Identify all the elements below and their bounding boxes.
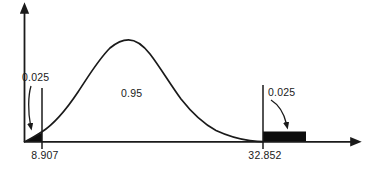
density-curve bbox=[25, 40, 264, 142]
right-tail-shaded-region bbox=[263, 132, 306, 142]
right-critical-value-label: 32.852 bbox=[248, 149, 281, 161]
left-annotation-arrow-icon bbox=[29, 86, 31, 125]
left-tail-probability-label: 0.025 bbox=[22, 71, 49, 83]
plot-canvas bbox=[0, 0, 370, 171]
left-critical-value-label: 8.907 bbox=[31, 149, 58, 161]
right-annotation-arrow-icon bbox=[271, 100, 287, 124]
distribution-figure: 0.025 0.95 0.025 8.907 32.852 bbox=[0, 0, 370, 171]
right-tail-probability-label: 0.025 bbox=[268, 86, 295, 98]
central-probability-label: 0.95 bbox=[121, 87, 142, 99]
